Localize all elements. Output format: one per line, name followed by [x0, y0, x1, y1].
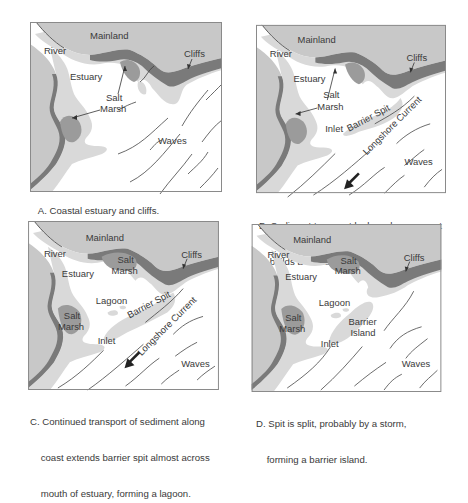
label-inlet: Inlet: [321, 339, 339, 349]
panel-c: Mainland River Cliffs Salt Marsh Estuary…: [27, 221, 220, 390]
label-salt-top: Salt: [118, 254, 135, 265]
label-waves: Waves: [181, 358, 210, 369]
label-cliffs: Cliffs: [181, 249, 202, 260]
label-lagoon: Lagoon: [319, 298, 350, 308]
label-waves: Waves: [402, 359, 431, 369]
label-cliffs: Cliffs: [406, 52, 427, 63]
label-marsh: Marsh: [317, 101, 343, 112]
label-estuary: Estuary: [62, 268, 94, 279]
label-marsh: Marsh: [279, 324, 305, 334]
label-lagoon: Lagoon: [96, 295, 128, 306]
label-marsh-top: Marsh: [112, 265, 138, 276]
panel-d-map: Mainland River Cliffs Salt Marsh Estuary…: [251, 224, 442, 392]
label-marsh-top: Marsh: [335, 266, 361, 276]
label-mainland: Mainland: [293, 235, 331, 245]
label-salt: Salt: [106, 92, 123, 103]
caption-c-line1: C. Continued transport of sediment along: [30, 416, 210, 428]
caption-d-line2: forming a barrier island.: [256, 454, 406, 466]
label-salt: Salt: [64, 310, 81, 321]
sediment-blob: [138, 82, 147, 95]
label-mainland: Mainland: [86, 232, 124, 243]
label-waves: Waves: [404, 156, 433, 167]
label-waves: Waves: [158, 135, 187, 146]
caption-c-line2: coast extends barrier spit almost across: [30, 452, 210, 464]
label-river: River: [44, 45, 66, 56]
label-mainland: Mainland: [90, 30, 129, 41]
panel-c-map: Mainland River Cliffs Salt Marsh Estuary…: [27, 221, 220, 390]
caption-c-line3: mouth of estuary, forming a lagoon.: [30, 488, 210, 500]
label-river: River: [267, 250, 289, 260]
label-marsh: Marsh: [100, 103, 126, 114]
caption-c: C. Continued transport of sediment along…: [30, 392, 210, 503]
label-inlet: Inlet: [325, 123, 343, 134]
caption-d-line1: D. Spit is split, probably by a storm,: [256, 418, 406, 430]
label-salt-top: Salt: [341, 256, 358, 266]
label-barrier: Barrier: [348, 317, 376, 327]
label-mainland: Mainland: [298, 34, 336, 45]
label-salt: Salt: [323, 89, 340, 100]
caption-a: A. Coastal estuary and cliffs.: [33, 193, 159, 217]
panel-b: Mainland River Cliffs Estuary Salt Marsh…: [256, 24, 446, 194]
label-island: Island: [350, 328, 375, 338]
longshore-current-arrow-icon: [344, 173, 359, 189]
label-cliffs: Cliffs: [184, 48, 205, 59]
label-estuary: Estuary: [285, 272, 317, 282]
label-cliffs: Cliffs: [404, 253, 425, 263]
panel-a-map: Mainland River Cliffs Estuary Salt Marsh…: [30, 22, 222, 192]
label-marsh: Marsh: [58, 321, 84, 332]
label-river: River: [270, 48, 292, 59]
caption-a-line1: A. Coastal estuary and cliffs.: [38, 205, 159, 216]
label-river: River: [44, 248, 66, 259]
label-estuary: Estuary: [70, 71, 102, 82]
caption-d: D. Spit is split, probably by a storm, f…: [256, 394, 406, 478]
label-estuary: Estuary: [294, 73, 326, 84]
panel-a: Mainland River Cliffs Estuary Salt Marsh…: [30, 22, 222, 192]
label-salt: Salt: [285, 313, 302, 323]
panel-b-map: Mainland River Cliffs Estuary Salt Marsh…: [256, 24, 446, 194]
label-inlet: Inlet: [98, 335, 116, 346]
panel-d: Mainland River Cliffs Salt Marsh Estuary…: [251, 224, 442, 392]
